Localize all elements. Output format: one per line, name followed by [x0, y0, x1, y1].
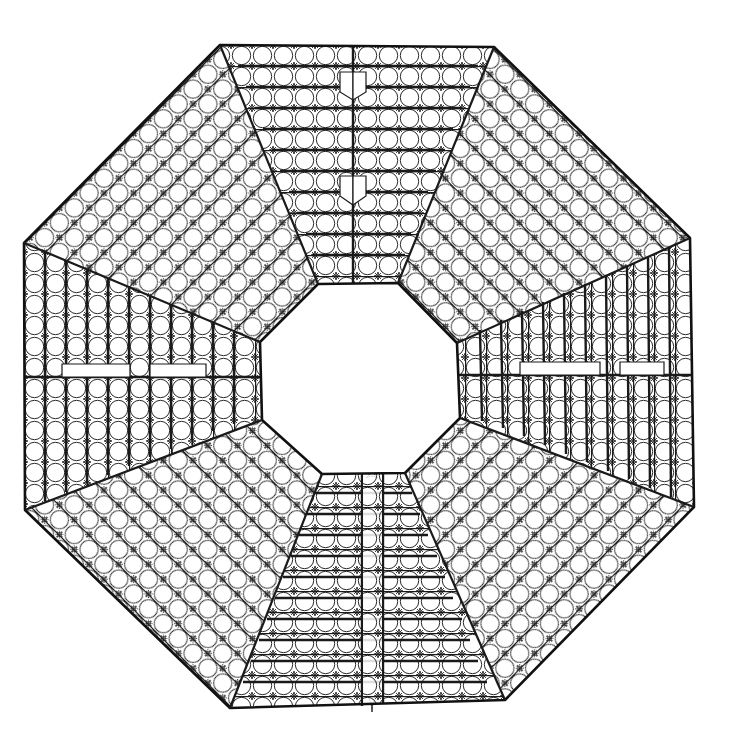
octagon-tiling-diagram	[0, 0, 739, 752]
bottom-channel-fill	[363, 475, 382, 703]
